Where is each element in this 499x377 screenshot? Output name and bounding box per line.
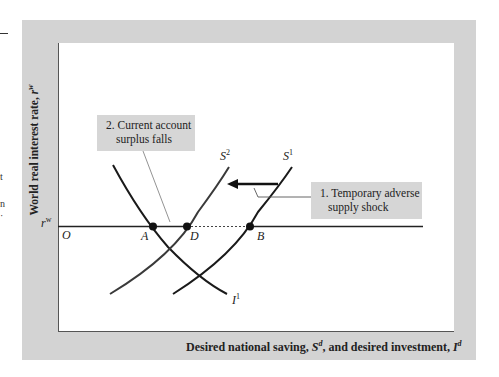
curve-label-i1-sup: 1 [236, 292, 240, 301]
point-b-marker [246, 223, 254, 231]
shift-arrow-head-icon [227, 179, 238, 189]
curve-label-s1: S1 [283, 148, 293, 164]
saving-curve-s2 [110, 167, 229, 294]
shock-callout-leader [254, 188, 311, 197]
callout-shock-line1: 1. Temporary adverse [311, 186, 422, 200]
origin-label: O [62, 228, 71, 243]
investment-curve-i1 [113, 165, 227, 294]
point-label-b: B [257, 229, 264, 244]
callout-supply-shock: 1. Temporary adverse supply shock [311, 182, 422, 219]
curve-label-i1: I1 [232, 292, 240, 308]
point-label-d: D [190, 229, 199, 244]
callout-surplus-line1: 2. Current account [97, 118, 195, 132]
callout-surplus-falls: 2. Current account surplus falls [97, 115, 195, 151]
surplus-callout-leader [143, 151, 170, 222]
callout-surplus-line2: surplus falls [97, 132, 195, 146]
point-a-marker [149, 223, 157, 231]
curve-label-s2: S2 [220, 148, 230, 164]
curve-label-s2-sup: 2 [226, 148, 230, 157]
curve-label-s1-sup: 1 [289, 148, 293, 157]
diagram-svg [0, 0, 499, 377]
callout-shock-line2: supply shock [311, 200, 422, 214]
point-label-a: A [141, 229, 148, 244]
world-rate-tick-sup: w [46, 215, 52, 224]
world-rate-tick-label: rw [41, 215, 51, 231]
